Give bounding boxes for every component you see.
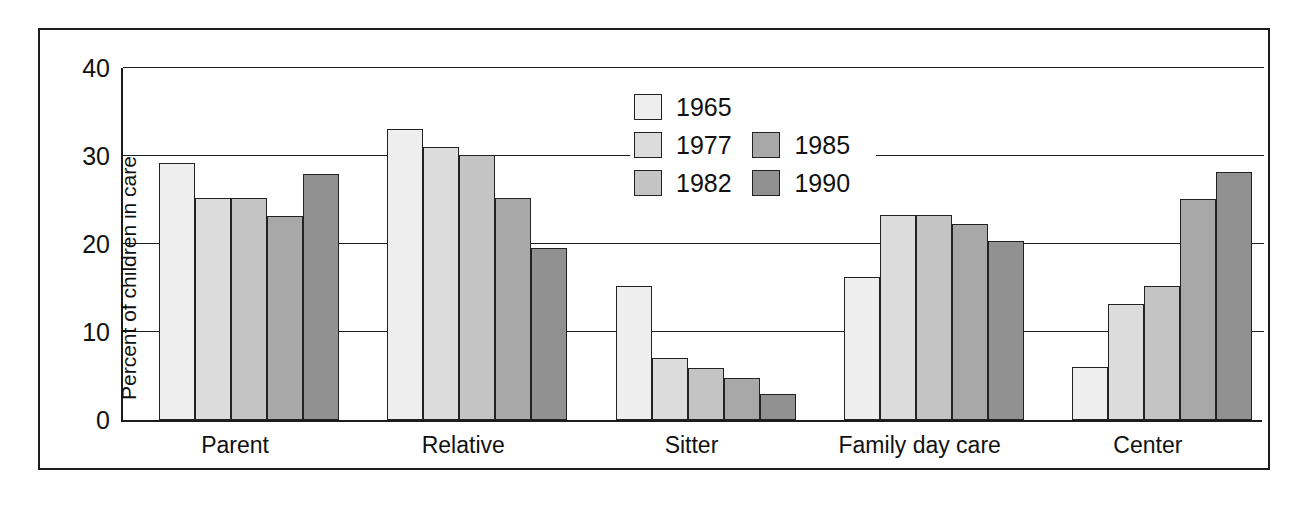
bar bbox=[531, 248, 567, 420]
bar bbox=[652, 358, 688, 420]
y-tick-label: 40 bbox=[50, 54, 110, 83]
legend-label: 1965 bbox=[676, 93, 748, 122]
bar bbox=[616, 286, 652, 420]
bar bbox=[1072, 367, 1108, 420]
legend-label: 1977 bbox=[676, 131, 748, 160]
legend-column-right: 19851990 bbox=[752, 88, 866, 202]
y-tick-label: 30 bbox=[50, 142, 110, 171]
bar bbox=[1144, 286, 1180, 420]
bar bbox=[1108, 304, 1144, 420]
bar-group bbox=[159, 68, 339, 420]
y-tick-label: 20 bbox=[50, 230, 110, 259]
legend-swatch-icon bbox=[634, 170, 662, 196]
bar bbox=[952, 224, 988, 420]
category-label: Sitter bbox=[577, 432, 805, 459]
legend-swatch-icon bbox=[634, 132, 662, 158]
chart-figure: Percent of children in care 010203040 Pa… bbox=[0, 0, 1308, 505]
legend-item: 1965 bbox=[634, 88, 748, 126]
legend-item: 1977 bbox=[634, 126, 748, 164]
bar bbox=[724, 378, 760, 420]
category-label: Family day care bbox=[806, 432, 1034, 459]
y-tick-label: 0 bbox=[50, 406, 110, 435]
legend-item: 1985 bbox=[752, 126, 866, 164]
bar bbox=[459, 155, 495, 420]
legend-label: 1990 bbox=[794, 169, 866, 198]
category-label: Relative bbox=[349, 432, 577, 459]
bar bbox=[880, 215, 916, 420]
legend-item: 1990 bbox=[752, 164, 866, 202]
bar bbox=[916, 215, 952, 420]
bar bbox=[1180, 199, 1216, 420]
bar bbox=[423, 147, 459, 420]
category-label: Center bbox=[1034, 432, 1262, 459]
category-label: Parent bbox=[121, 432, 349, 459]
bar bbox=[303, 174, 339, 420]
bar bbox=[159, 163, 195, 420]
bar bbox=[495, 198, 531, 420]
bar bbox=[267, 216, 303, 420]
bar bbox=[988, 241, 1024, 420]
x-axis-line bbox=[121, 420, 1262, 422]
bar bbox=[1216, 172, 1252, 420]
y-tick-label: 10 bbox=[50, 318, 110, 347]
bar bbox=[195, 198, 231, 420]
bar bbox=[688, 368, 724, 420]
legend-label: 1985 bbox=[794, 131, 866, 160]
bar-group bbox=[1072, 68, 1252, 420]
legend-swatch-icon bbox=[752, 170, 780, 196]
legend-label: 1982 bbox=[676, 169, 748, 198]
bar-group bbox=[387, 68, 567, 420]
bar bbox=[231, 198, 267, 420]
legend-swatch-icon bbox=[752, 132, 780, 158]
legend-spacer bbox=[752, 88, 866, 126]
legend-column-left: 196519771982 bbox=[634, 88, 748, 202]
legend-item: 1982 bbox=[634, 164, 748, 202]
bar bbox=[387, 129, 423, 420]
bar bbox=[760, 394, 796, 420]
legend-swatch-icon bbox=[634, 94, 662, 120]
bar bbox=[844, 277, 880, 420]
chart-legend: 196519771982 19851990 bbox=[630, 84, 876, 208]
